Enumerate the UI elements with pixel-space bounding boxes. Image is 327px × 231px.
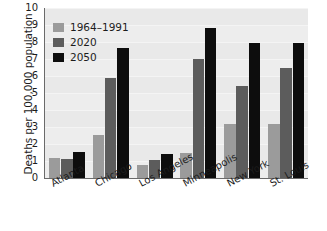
bar [236,86,248,178]
y-axis-tick-label: 3 [21,122,38,132]
bar-group [177,8,221,178]
bar [280,68,292,179]
legend-label: 1964–1991 [70,22,129,33]
y-axis-tick-label: 1 [21,156,38,166]
y-axis-tick-label: 10 [21,3,38,13]
y-axis-tick-label: 9 [21,20,38,30]
bar [268,124,280,178]
bar-group [220,8,264,178]
bar-group [264,8,308,178]
bar [117,48,129,178]
y-axis-tick-label: 7 [21,54,38,64]
y-axis-tick-label: 4 [21,105,38,115]
y-axis-tick-labels: 012345678910 [21,8,38,178]
legend-label: 2020 [70,37,97,48]
x-axis-tick-labels: AtlantaChicagoLos AngelesMinneapolisNew … [44,179,307,231]
legend-swatch [53,38,64,47]
bar-group [133,8,177,178]
legend-item: 1964–1991 [53,20,129,35]
bar [293,43,305,178]
y-axis-tick-label: 5 [21,88,38,98]
y-axis-tick-label: 2 [21,139,38,149]
legend-item: 2050 [53,50,129,65]
bar [205,28,217,178]
legend-item: 2020 [53,35,129,50]
bar-chart: Deaths per 100,000 population 0123456789… [0,0,327,231]
bar [93,135,105,178]
bar [249,43,261,178]
legend-label: 2050 [70,52,97,63]
y-axis-tick-label: 6 [21,71,38,81]
y-axis-tick-label: 8 [21,37,38,47]
legend-swatch [53,53,64,62]
bar [105,78,117,178]
legend: 1964–199120202050 [53,20,129,65]
y-axis-tick-label: 0 [21,173,38,183]
legend-swatch [53,23,64,32]
